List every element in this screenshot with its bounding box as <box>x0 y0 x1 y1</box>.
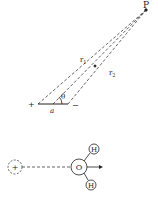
water-labels: + O H H <box>12 146 97 190</box>
r-center-line <box>53 10 146 104</box>
separation-label: a <box>50 107 54 115</box>
point-p-label: P <box>143 0 149 10</box>
midpoint-dot <box>94 65 96 67</box>
r2-label: r2 <box>109 69 116 78</box>
r1-label: r1 <box>80 56 87 65</box>
hydrogen-bottom-label: H <box>88 182 94 190</box>
oh-bond-top <box>84 153 90 161</box>
dipole-labels: P r1 r2 θ a + − <box>28 0 149 115</box>
plus-charge-label: + <box>28 100 35 109</box>
dipole-arrow-head-icon <box>99 165 103 169</box>
figure: P r1 r2 θ a + − + O H H <box>0 0 158 204</box>
r1-line <box>38 10 146 104</box>
theta-label: θ <box>61 93 65 101</box>
hydrogen-top-label: H <box>91 146 97 154</box>
oxygen-label: O <box>76 163 83 172</box>
minus-charge-label: − <box>72 101 79 110</box>
dipole-diagram <box>38 9 147 104</box>
ion-label: + <box>12 163 19 172</box>
oh-bond-bottom <box>84 173 88 180</box>
